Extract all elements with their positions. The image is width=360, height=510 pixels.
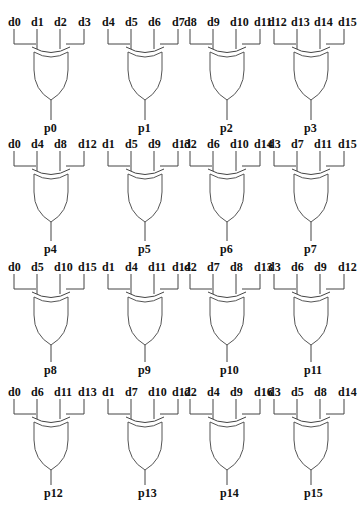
output-label: p8	[44, 363, 57, 377]
input-wire	[14, 399, 36, 414]
input-wire	[108, 274, 130, 289]
input-wire	[14, 274, 36, 289]
xor-input-curve	[32, 47, 70, 53]
xor-gate-body	[128, 297, 162, 345]
input-wire	[190, 399, 212, 414]
xor-gate-p6: d2d6d10d14p6	[184, 137, 273, 256]
xor-gate-p14: d2d4d9d16p14	[184, 385, 273, 500]
xor-gate-body	[128, 422, 162, 470]
input-label: d9	[148, 137, 161, 151]
input-wire	[326, 399, 344, 414]
xor-gate-body	[210, 297, 244, 345]
input-wire	[190, 151, 212, 166]
input-wire	[160, 399, 178, 414]
xor-gate-body	[294, 52, 328, 100]
xor-input-curve	[208, 47, 246, 53]
xor-input-curve	[292, 47, 330, 53]
xor-gate-body	[294, 297, 328, 345]
input-wire	[242, 29, 260, 44]
input-wire	[14, 151, 36, 166]
input-wire	[190, 29, 212, 44]
input-label: d5	[125, 15, 138, 29]
input-label: d6	[148, 15, 161, 29]
output-label: p14	[220, 486, 239, 500]
input-label: d8	[54, 137, 67, 151]
input-wire	[274, 151, 296, 166]
input-wire	[66, 29, 84, 44]
input-wire	[274, 29, 296, 44]
input-wire	[242, 274, 260, 289]
output-label: p0	[44, 121, 57, 135]
xor-gate-body	[294, 422, 328, 470]
input-wire	[326, 151, 344, 166]
output-label: p12	[44, 486, 63, 500]
output-label: p11	[304, 363, 322, 377]
xor-input-curve	[208, 169, 246, 175]
input-label: d13	[291, 15, 310, 29]
input-wire	[108, 29, 130, 44]
input-label: d3	[268, 385, 281, 399]
output-label: p15	[304, 486, 323, 500]
xor-gate-body	[34, 52, 68, 100]
xor-input-curve	[292, 292, 330, 298]
input-label: d3	[268, 260, 281, 274]
input-label: d0	[8, 137, 21, 151]
xor-gate-p10: d2d7d8d13p10	[184, 260, 273, 377]
input-wire	[326, 29, 344, 44]
xor-gate-p15: d3d5d8d14p15	[268, 385, 357, 500]
xor-input-curve	[32, 292, 70, 298]
input-label: d4	[125, 260, 138, 274]
xor-gate-p0: d0d1d2d3p0	[8, 15, 91, 135]
input-wire	[242, 151, 260, 166]
input-label: d8	[314, 385, 327, 399]
input-label: d7	[125, 385, 138, 399]
xor-gate-body	[34, 174, 68, 222]
xor-gate-body	[128, 174, 162, 222]
xor-gate-body	[294, 174, 328, 222]
input-label: d2	[54, 15, 67, 29]
input-wire	[66, 151, 84, 166]
xor-gate-p1: d4d5d6d7p1	[102, 15, 185, 135]
input-label: d5	[291, 385, 304, 399]
input-label: d14	[338, 385, 357, 399]
input-label: d6	[207, 137, 220, 151]
input-label: d2	[184, 137, 197, 151]
output-label: p3	[304, 121, 317, 135]
input-label: d15	[78, 260, 97, 274]
input-label: d7	[172, 15, 185, 29]
input-label: d3	[268, 137, 281, 151]
input-label: d4	[31, 137, 44, 151]
xor-input-curve	[32, 417, 70, 423]
input-label: d5	[125, 137, 138, 151]
xor-gate-p12: d0d6d11d13p12	[8, 385, 97, 500]
input-label: d7	[207, 260, 220, 274]
input-label: d4	[207, 385, 220, 399]
input-label: d5	[31, 260, 44, 274]
input-label: d11	[314, 137, 332, 151]
input-wire	[108, 151, 130, 166]
input-label: d7	[291, 137, 304, 151]
input-label: d2	[184, 385, 197, 399]
input-wire	[14, 29, 36, 44]
input-label: d0	[8, 385, 21, 399]
input-wire	[66, 274, 84, 289]
xor-input-curve	[208, 417, 246, 423]
input-label: d10	[148, 385, 167, 399]
input-wire	[66, 399, 84, 414]
input-wire	[190, 274, 212, 289]
output-label: p5	[138, 242, 151, 256]
input-wire	[326, 274, 344, 289]
input-label: d8	[184, 15, 197, 29]
input-wire	[160, 29, 178, 44]
input-wire	[160, 151, 178, 166]
output-label: p1	[138, 121, 151, 135]
input-label: d1	[31, 15, 44, 29]
xor-input-curve	[208, 292, 246, 298]
xor-input-curve	[32, 169, 70, 175]
input-wire	[242, 399, 260, 414]
xor-input-curve	[126, 47, 164, 53]
xor-gate-p9: d1d4d11d14p9	[102, 260, 191, 377]
xor-input-curve	[292, 169, 330, 175]
input-label: d4	[102, 15, 115, 29]
input-label: d14	[314, 15, 333, 29]
